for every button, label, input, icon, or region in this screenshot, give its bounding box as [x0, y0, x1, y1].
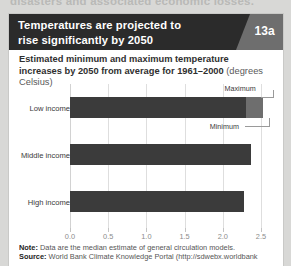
figure-subtitle-main: Estimated minimum and maximum temperatur…	[19, 54, 229, 76]
leader-line-maximum	[261, 90, 274, 98]
note-label: Note:	[19, 243, 38, 252]
figure-footnotes: Note: Data are the median estimate of ge…	[19, 243, 283, 262]
leader-line-minimum	[245, 118, 270, 127]
source-row: Source: World Bank Climate Knowledge Por…	[19, 252, 283, 262]
x-axis-tick-label: 2.5	[256, 232, 266, 241]
x-axis-tick-label: 0.0	[65, 232, 75, 241]
category-label: Low income	[29, 104, 70, 113]
category-label: Middle income	[21, 151, 70, 160]
x-axis-tick-label: 2.0	[218, 232, 228, 241]
figure-title: Temperatures are projected to rise signi…	[18, 18, 233, 47]
running-page-text: disasters and associated economic losses…	[10, 0, 285, 7]
annotation-minimum: Minimum	[210, 122, 239, 131]
bar-minimum	[70, 97, 246, 118]
figure-title-line1: Temperatures are projected to	[18, 19, 181, 31]
category-label: High income	[28, 198, 70, 207]
x-axis-tick-label: 1.0	[141, 232, 151, 241]
x-axis-tick-label: 1.5	[179, 232, 189, 241]
bar-minimum	[70, 191, 244, 212]
figure-title-line2: rise significantly by 2050	[18, 34, 153, 46]
figure-number-badge: 13a	[254, 24, 275, 38]
figure-card: Temperatures are projected to rise signi…	[9, 14, 283, 266]
x-axis-tick-label: 0.5	[103, 232, 113, 241]
chart-plot-area: 0.00.51.01.52.02.5Low incomeMiddle incom…	[9, 82, 283, 242]
note-row: Note: Data are the median estimate of ge…	[19, 243, 283, 253]
source-label: Source:	[19, 252, 47, 261]
source-text: World Bank Climate Knowledge Portal (htt…	[49, 252, 258, 261]
bar-minimum	[70, 144, 251, 165]
annotation-maximum: Maximum	[225, 84, 256, 93]
figure-header: Temperatures are projected to rise signi…	[9, 14, 283, 50]
note-text: Data are the median estimate of general …	[40, 243, 235, 252]
